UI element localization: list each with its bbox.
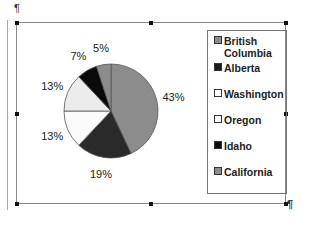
data-label-california: 43% [162, 91, 184, 103]
data-label-washington: 13% [41, 80, 63, 92]
legend-swatch [214, 36, 222, 44]
legend-label: Washington [224, 88, 284, 100]
legend-label: Oregon [224, 114, 261, 126]
legend-item-california: California [214, 166, 272, 178]
legend-label: British [224, 35, 257, 47]
data-label-alberta: 7% [70, 50, 86, 62]
legend-item-alberta: Alberta [214, 62, 260, 74]
legend-item-oregon: Oregon [214, 114, 261, 126]
legend-swatch [214, 167, 222, 175]
legend-item-british-columbia: BritishColumbia [214, 35, 272, 59]
legend-item-washington: Washington [214, 88, 284, 100]
data-label-oregon: 13% [41, 130, 63, 142]
legend-swatch [214, 63, 222, 71]
legend-swatch [214, 89, 222, 97]
legend-label: California [224, 166, 272, 178]
data-label-british-columbia: 5% [93, 42, 109, 54]
legend-swatch [214, 141, 222, 149]
chart-legend[interactable]: BritishColumbiaAlbertaWashingtonOregonId… [207, 30, 287, 194]
legend-item-idaho: Idaho [214, 140, 252, 152]
legend-label: Idaho [224, 140, 252, 152]
legend-label: Alberta [224, 62, 260, 74]
legend-label: Columbia [224, 47, 272, 59]
legend-swatch [214, 115, 222, 123]
data-label-idaho: 19% [90, 168, 112, 180]
